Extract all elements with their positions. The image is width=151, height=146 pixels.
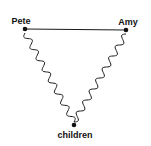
edge-amy-children bbox=[74, 34, 126, 122]
node-dot-pete bbox=[23, 27, 28, 32]
node-label-children: children bbox=[57, 130, 92, 140]
triangle-diagram: Pete Amy children bbox=[0, 0, 151, 146]
node-label-pete: Pete bbox=[11, 16, 30, 26]
node-dot-children bbox=[72, 123, 77, 128]
edge-pete-amy bbox=[25, 29, 126, 30]
edge-pete-children bbox=[24, 33, 76, 122]
node-dot-amy bbox=[124, 28, 129, 33]
node-label-amy: Amy bbox=[118, 17, 138, 27]
